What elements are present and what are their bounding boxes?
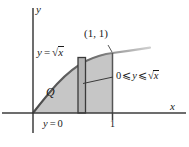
curve-equation-label: y=√x xyxy=(37,46,64,58)
figure-canvas xyxy=(0,0,189,147)
y-axis-label: y xyxy=(36,4,41,15)
region-label-q: Q xyxy=(46,86,55,98)
lower-boundary-lhs: y xyxy=(43,118,48,129)
inequality-relation-right: ⩽ xyxy=(137,70,148,81)
shaded-region-q xyxy=(33,53,113,113)
inequality-relation-left: ⩽ xyxy=(121,70,132,81)
math-figure-region-under-sqrt-curve: y x y=√x (1, 1) Q y=0 1 0⩽y⩽√x xyxy=(0,0,189,147)
x-tick-label-1: 1 xyxy=(110,119,115,129)
inequality-radicand: x xyxy=(153,70,159,82)
lower-boundary-label: y=0 xyxy=(43,119,63,130)
curve-equation-equals: = xyxy=(42,46,52,58)
point-label-1-1: (1, 1) xyxy=(84,28,108,39)
lower-boundary-rhs: 0 xyxy=(58,118,63,129)
lower-boundary-equals: = xyxy=(48,118,58,129)
curve-equation-radicand: x xyxy=(58,46,64,58)
inequality-annotation: 0⩽y⩽√x xyxy=(116,70,159,82)
point-label-leader xyxy=(108,45,112,52)
representative-strip xyxy=(78,58,86,114)
x-axis-label: x xyxy=(170,101,175,112)
inequality-radical-expression: √x xyxy=(148,70,159,82)
curve-equation-radical-expression: √x xyxy=(52,46,64,58)
